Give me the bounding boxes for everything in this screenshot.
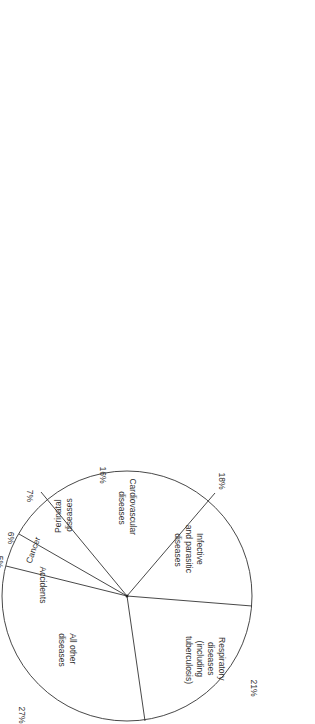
dev-pct-infective: 18% bbox=[217, 472, 227, 489]
figure-svg: Respiratory diseases (including tubercul… bbox=[0, 0, 315, 724]
dev-pct-accidents: 5% bbox=[0, 556, 5, 569]
dev-pct-cardio: 16% bbox=[98, 466, 108, 483]
dev-pct-cancer: 6% bbox=[6, 532, 16, 545]
dev-label-respiratory: Respiratory diseases (including tubercul… bbox=[184, 636, 227, 684]
pie-developing: Respiratory diseases (including tubercul… bbox=[0, 466, 259, 724]
dev-label-perinatal: Perinatal diseases bbox=[53, 497, 74, 533]
dev-label-accidents: Accidents bbox=[38, 567, 48, 604]
dev-pct-perinatal: 7% bbox=[25, 490, 35, 503]
figure-stage: Respiratory diseases (including tubercul… bbox=[0, 0, 315, 724]
dev-pct-respiratory: 21% bbox=[249, 679, 259, 696]
dev-label-other: All other diseases bbox=[57, 633, 78, 667]
dev-pct-other: 27% bbox=[17, 706, 27, 723]
